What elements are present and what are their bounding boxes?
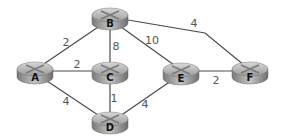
edge-weight-label: 2 [213,75,220,86]
router-label: A [31,73,39,83]
router-label: E [178,74,185,84]
edge-weight-label: 4 [191,18,198,29]
router-label: B [106,19,114,29]
edge-weight-label: 10 [145,35,159,46]
edge-weight-label: 2 [74,59,81,70]
router-label: D [106,123,114,133]
router-label: F [247,73,254,83]
edge-weight-label: 2 [63,37,70,48]
edge-weight-label: 8 [113,41,120,52]
edge-weight-label: 4 [142,99,149,110]
edge-weight-label: 4 [63,96,70,107]
router-label: C [106,73,113,83]
edge-weight-label: 1 [111,93,118,104]
graph-edges [0,0,285,139]
edge-B-F [110,17,250,70]
